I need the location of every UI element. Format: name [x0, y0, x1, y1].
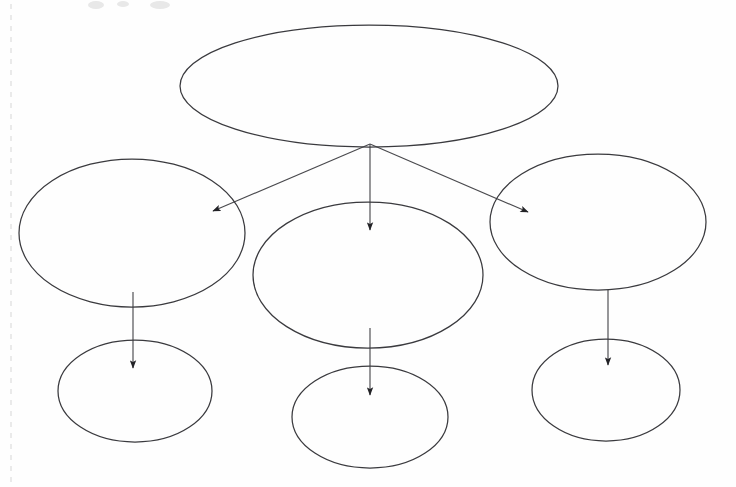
node-shape-ellipse — [490, 154, 706, 290]
connector-line — [213, 144, 370, 211]
node-shape-ellipse — [253, 202, 483, 348]
connector-root-to-branch-right[interactable] — [370, 144, 528, 212]
scan-smudge-2 — [150, 1, 170, 9]
node-leaf-right[interactable] — [532, 339, 680, 441]
scan-smudge-0 — [88, 1, 104, 9]
node-leaf-left[interactable] — [58, 340, 212, 442]
node-shape-ellipse — [19, 159, 245, 307]
connector-root-to-branch-left[interactable] — [213, 144, 370, 211]
connector-layer — [133, 144, 608, 395]
connector-line — [370, 144, 528, 212]
node-shape-ellipse — [180, 25, 558, 147]
node-shape-ellipse — [532, 339, 680, 441]
node-branch-center[interactable] — [253, 202, 483, 348]
node-branch-left[interactable] — [19, 159, 245, 307]
node-layer — [19, 25, 706, 468]
scan-smudge-1 — [117, 1, 129, 7]
concept-map-canvas[interactable] — [0, 0, 736, 487]
node-root[interactable] — [180, 25, 558, 147]
worksheet-page — [0, 0, 736, 487]
node-branch-right[interactable] — [490, 154, 706, 290]
node-shape-ellipse — [58, 340, 212, 442]
scan-artifact-layer — [11, 1, 170, 483]
